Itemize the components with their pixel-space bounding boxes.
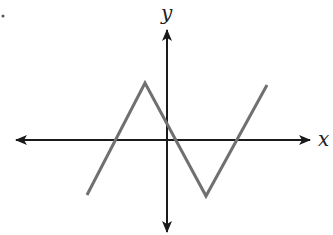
stray-dot xyxy=(2,15,5,18)
graph: x y xyxy=(0,0,333,235)
y-axis-label: y xyxy=(160,1,173,25)
x-axis-label: x xyxy=(318,127,329,151)
